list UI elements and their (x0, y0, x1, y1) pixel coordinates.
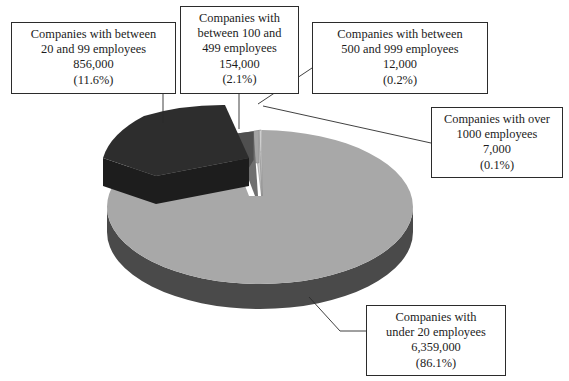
callout-value: 154,000 (185, 57, 294, 72)
callout-value: 856,000 (16, 57, 171, 72)
callout-line: between 100 and (185, 26, 294, 41)
callout-line: Companies with over (436, 112, 558, 127)
callout-companies-under-20: Companies with under 20 employees 6,359,… (366, 305, 506, 376)
callout-percent: (0.2%) (317, 73, 483, 88)
callout-value: 7,000 (436, 142, 558, 157)
callout-line: 500 and 999 employees (317, 42, 483, 57)
callout-line: Companies with between (16, 27, 171, 42)
callout-line: 1000 employees (436, 127, 558, 142)
callout-line: under 20 employees (371, 325, 501, 340)
callout-line: Companies with (185, 11, 294, 26)
callout-percent: (86.1%) (371, 356, 501, 371)
pie-chart-figure: Companies with between 20 and 99 employe… (0, 0, 569, 381)
callout-companies-500-999: Companies with between 500 and 999 emplo… (312, 22, 488, 94)
callout-value: 12,000 (317, 57, 483, 72)
callout-line: Companies with between (317, 27, 483, 42)
callout-percent: (0.1%) (436, 158, 558, 173)
callout-percent: (2.1%) (185, 72, 294, 87)
callout-value: 6,359,000 (371, 340, 501, 355)
callout-line: 499 employees (185, 41, 294, 56)
callout-line: Companies with (371, 310, 501, 325)
callout-companies-20-99: Companies with between 20 and 99 employe… (11, 22, 176, 94)
callout-companies-100-499: Companies with between 100 and 499 emplo… (180, 6, 299, 94)
callout-companies-over-1000: Companies with over 1000 employees 7,000… (431, 107, 563, 178)
callout-line: 20 and 99 employees (16, 42, 171, 57)
callout-percent: (11.6%) (16, 73, 171, 88)
